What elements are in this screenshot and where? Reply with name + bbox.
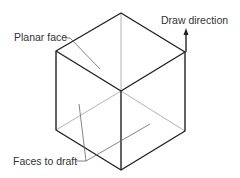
planar-face-label: Planar face bbox=[14, 31, 67, 43]
cube-diagram: Planar face Draw direction Faces to draf… bbox=[0, 0, 240, 178]
draw-direction-label: Draw direction bbox=[161, 14, 228, 26]
draw-direction-arrow bbox=[184, 28, 189, 52]
visible-edges bbox=[56, 13, 185, 170]
arrowhead-icon bbox=[184, 28, 189, 35]
faces-to-draft-leader-right bbox=[86, 124, 150, 161]
faces-to-draft-label: Faces to draft bbox=[13, 155, 77, 167]
